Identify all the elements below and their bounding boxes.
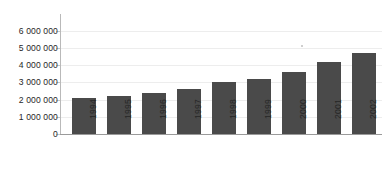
y-axis-line: [60, 14, 61, 135]
x-axis-label-1999: 1999: [263, 99, 273, 139]
y-axis-label-5000000: 5 000 000: [0, 44, 58, 53]
x-axis-label-2000: 2000: [298, 99, 308, 139]
x-axis-label-1994: 1994: [88, 99, 98, 139]
x-axis-label-2002: 2002: [368, 99, 378, 139]
y-axis-label-3000000: 3 000 000: [0, 78, 58, 87]
x-axis-label-1996: 1996: [158, 99, 168, 139]
y-axis-label-4000000: 4 000 000: [0, 61, 58, 70]
y-axis-label-6000000: 6 000 000: [0, 27, 58, 36]
gridline-6000000: [61, 31, 382, 32]
x-axis-label-1998: 1998: [228, 99, 238, 139]
gridline-5000000: [61, 48, 382, 49]
x-axis-label-1995: 1995: [123, 99, 133, 139]
bar-chart-figure: 6 000 000 5 000 000 4 000 000 3 000 000 …: [0, 0, 390, 182]
y-axis-label-1000000: 1 000 000: [0, 113, 58, 122]
scan-artifact-speck: [301, 45, 303, 47]
chart-title: [120, 0, 290, 3]
x-axis-label-2001: 2001: [333, 99, 343, 139]
y-axis-label-0: 0: [0, 130, 58, 139]
x-axis-label-1997: 1997: [193, 99, 203, 139]
y-axis-label-2000000: 2 000 000: [0, 96, 58, 105]
